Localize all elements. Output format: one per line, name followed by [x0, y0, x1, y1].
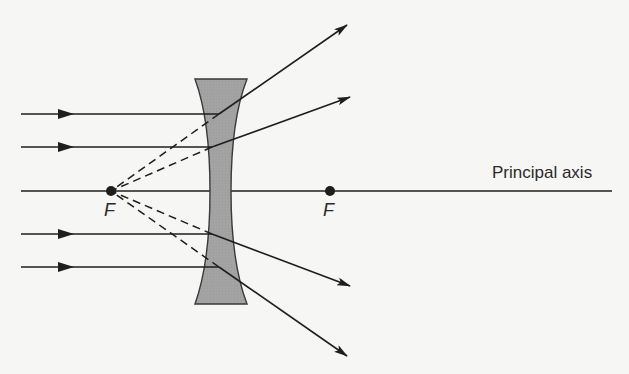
refracted-ray-4	[219, 267, 347, 356]
dashed-extension-4	[111, 191, 219, 267]
dashed-extension-1	[111, 114, 219, 191]
dashed-extension-3	[111, 191, 212, 234]
focal-label-right: F	[323, 200, 334, 221]
diagram-canvas	[0, 0, 629, 374]
ray-diagram: Principal axis F F	[0, 0, 629, 374]
principal-axis-label: Principal axis	[492, 163, 592, 183]
focal-point-right	[325, 186, 335, 196]
focal-label-left: F	[104, 200, 115, 221]
refracted-ray-1	[219, 25, 347, 114]
dashed-extension-2	[111, 147, 212, 191]
focal-point-left	[106, 186, 116, 196]
